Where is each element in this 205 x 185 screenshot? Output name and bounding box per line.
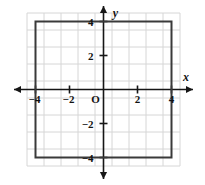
x-tick-label: −4 — [29, 93, 41, 105]
y-axis-name: y — [111, 6, 119, 20]
origin-label: O — [91, 93, 100, 105]
x-tick-label: 4 — [169, 93, 175, 105]
y-tick-label: 2 — [88, 50, 94, 62]
y-tick-label: −4 — [82, 152, 94, 164]
x-axis-name: x — [182, 70, 189, 84]
x-tick-label: −2 — [63, 93, 75, 105]
coordinate-plane-figure: −4−22442−2−4Oxy — [0, 0, 205, 185]
x-tick-label: 2 — [135, 93, 141, 105]
y-tick-label: −2 — [82, 118, 94, 130]
coordinate-plane-svg: −4−22442−2−4Oxy — [0, 0, 205, 185]
y-tick-label: 4 — [88, 16, 94, 28]
